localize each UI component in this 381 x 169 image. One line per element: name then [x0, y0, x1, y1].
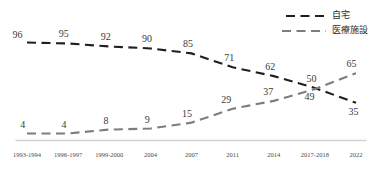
- data-label-facility-8: 65: [347, 59, 357, 69]
- data-label-home-1: 95: [59, 29, 69, 39]
- data-label-home-0: 96: [13, 30, 23, 40]
- data-label-facility-4: 15: [182, 109, 192, 119]
- legend-label-facility: 医療施設: [332, 26, 368, 35]
- data-label-facility-6: 37: [263, 87, 273, 97]
- data-label-facility-3: 9: [145, 115, 150, 125]
- data-label-facility-2: 8: [104, 116, 109, 126]
- data-label-home-7: 50: [306, 74, 316, 84]
- data-label-home-8: 35: [349, 107, 359, 117]
- line-chart: 自宅 医療施設 969592908571625035 4489152937496…: [0, 0, 381, 169]
- data-label-home-3: 90: [142, 34, 152, 44]
- data-label-home-6: 62: [265, 62, 275, 72]
- chart-plot-area: [0, 0, 381, 169]
- data-label-home-5: 71: [224, 53, 234, 63]
- data-label-facility-1: 4: [61, 120, 66, 130]
- legend-label-home: 自宅: [332, 11, 350, 20]
- data-label-facility-0: 4: [20, 120, 25, 130]
- data-label-facility-7: 49: [304, 92, 314, 102]
- data-label-home-2: 92: [101, 32, 111, 42]
- data-label-facility-5: 29: [221, 95, 231, 105]
- data-label-home-4: 85: [183, 39, 193, 49]
- x-tick-8: 2022: [332, 152, 380, 159]
